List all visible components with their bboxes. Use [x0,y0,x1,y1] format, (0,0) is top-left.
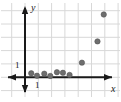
y-axis-tick-label-1: 1 [15,61,20,70]
scatter-plot-figure: y x 1 1 [0,0,121,102]
y-axis-label: y [31,3,35,13]
data-point [29,71,34,76]
data-point [79,60,84,65]
x-axis-label: x [111,84,115,94]
data-point [67,72,72,77]
data-point [101,12,106,17]
data-point [34,73,39,78]
data-point [95,39,100,44]
data-point [60,70,65,75]
data-point [48,73,53,78]
data-point [42,71,47,76]
data-point [54,70,59,75]
plot-canvas [0,0,121,102]
x-axis-tick-label-1: 1 [35,81,40,90]
